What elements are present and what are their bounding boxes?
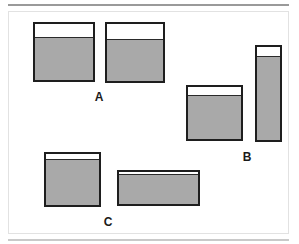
group-label-a: A — [95, 91, 104, 103]
vessel-a-left — [33, 22, 95, 82]
vessel-a-right-fill — [107, 39, 163, 81]
figure-canvas: A B C — [0, 0, 299, 244]
vessel-a-right — [105, 22, 165, 83]
vessel-b-left-fill — [188, 95, 241, 139]
group-label-c: C — [104, 216, 113, 228]
vessel-c-right-wide-fill — [119, 174, 198, 204]
group-label-b: B — [243, 151, 252, 163]
vessel-c-left-fill — [46, 159, 99, 205]
vessel-b-right-tall-fill — [257, 56, 280, 140]
top-rule-divider — [8, 4, 289, 6]
vessel-b-right-tall — [255, 45, 282, 142]
bottom-rule-divider — [8, 239, 289, 241]
vessel-b-left — [186, 85, 243, 141]
vessel-a-left-fill — [35, 37, 93, 80]
vessel-c-right-wide — [117, 170, 200, 206]
vessel-c-left — [44, 152, 101, 207]
